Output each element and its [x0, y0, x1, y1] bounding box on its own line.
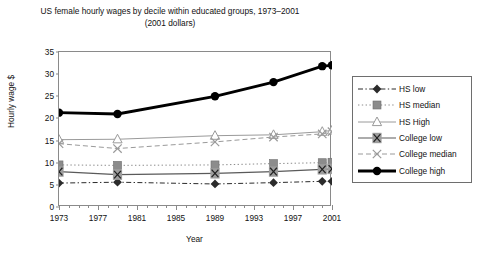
x-tick-mark-major: [215, 205, 216, 210]
x-axis-label: Year: [58, 234, 331, 244]
legend-item-label: College low: [399, 133, 442, 143]
y-tick-mark: [56, 140, 59, 141]
series-hs-high: [59, 125, 332, 143]
legend-symbol: [357, 82, 397, 96]
x-tick-label: 1977: [89, 213, 107, 223]
x-tick-mark-minor: [225, 205, 226, 208]
legend-item[interactable]: College high: [357, 162, 471, 178]
y-tick-mark: [56, 118, 59, 119]
x-tick-mark-minor: [69, 205, 70, 208]
y-tick-label: 35: [45, 47, 54, 57]
x-tick-mark-minor: [166, 205, 167, 208]
series-college-median: [59, 128, 332, 153]
legend-item-label: HS low: [399, 84, 425, 94]
legend-item-label: College high: [399, 166, 445, 176]
legend-item[interactable]: College low: [357, 130, 471, 146]
y-tick-mark: [56, 52, 59, 53]
x-tick-label: 2001: [323, 213, 341, 223]
x-tick-mark-minor: [264, 205, 265, 208]
y-tick-mark: [56, 184, 59, 185]
x-tick-label: 1981: [128, 213, 146, 223]
series-line: [59, 130, 332, 139]
x-tick-mark-major: [332, 205, 333, 210]
x-tick-mark-minor: [322, 205, 323, 208]
x-tick-mark-minor: [88, 205, 89, 208]
y-tick-mark: [56, 162, 59, 163]
x-tick-label: 1989: [206, 213, 224, 223]
x-tick-mark-minor: [108, 205, 109, 208]
x-tick-mark-minor: [157, 205, 158, 208]
series-hs-low: [59, 177, 332, 188]
chart-figure: US female hourly wages by decile within …: [0, 0, 479, 259]
x-tick-mark-major: [176, 205, 177, 210]
x-tick-mark-major: [254, 205, 255, 210]
x-tick-mark-minor: [118, 205, 119, 208]
legend-item-label: HS High: [399, 117, 430, 127]
series-line: [59, 181, 332, 184]
x-tick-mark-major: [98, 205, 99, 210]
x-tick-mark-minor: [147, 205, 148, 208]
x-tick-mark-minor: [186, 205, 187, 208]
y-tick-label: 5: [49, 180, 54, 190]
legend-symbol: [357, 147, 397, 161]
chart-title-line1: US female hourly wages by decile within …: [41, 6, 300, 16]
chart-legend: HS lowHS medianHS HighCollege lowCollege…: [352, 76, 472, 183]
legend-item-label: College median: [399, 149, 457, 159]
legend-symbol: [357, 115, 397, 129]
x-tick-mark-minor: [283, 205, 284, 208]
y-tick-label: 30: [45, 69, 54, 79]
chart-title: US female hourly wages by decile within …: [0, 5, 340, 29]
x-tick-label: 1993: [245, 213, 263, 223]
legend-symbol: [357, 98, 397, 112]
y-tick-label: 15: [45, 136, 54, 146]
chart-title-subtitle: (2001 dollars): [145, 18, 196, 28]
x-tick-mark-major: [293, 205, 294, 210]
legend-item[interactable]: HS low: [357, 81, 471, 97]
x-tick-mark-minor: [205, 205, 206, 208]
legend-item[interactable]: HS median: [357, 97, 471, 113]
series-hs-median: [59, 158, 332, 169]
x-tick-mark-major: [137, 205, 138, 210]
y-tick-label: 0: [49, 202, 54, 212]
series-college-high: [59, 61, 332, 118]
series-line: [59, 162, 332, 165]
x-tick-mark-minor: [79, 205, 80, 208]
y-tick-label: 10: [45, 158, 54, 168]
x-tick-mark-minor: [235, 205, 236, 208]
legend-item-label: HS median: [399, 100, 440, 110]
x-tick-mark-minor: [303, 205, 304, 208]
legend-symbol: [357, 164, 397, 178]
series-line: [59, 169, 332, 175]
x-tick-mark-minor: [196, 205, 197, 208]
x-tick-mark-minor: [244, 205, 245, 208]
series-line: [59, 132, 332, 149]
y-tick-label: 20: [45, 113, 54, 123]
legend-item[interactable]: HS High: [357, 114, 471, 130]
plot-area: 0510152025303519731977198119851989199319…: [58, 51, 331, 206]
y-tick-mark: [56, 96, 59, 97]
x-tick-mark-minor: [313, 205, 314, 208]
x-tick-label: 1997: [284, 213, 302, 223]
x-tick-mark-major: [59, 205, 60, 210]
y-axis-label: Hourly wage $: [6, 75, 16, 128]
legend-symbol: [357, 131, 397, 145]
x-tick-mark-minor: [274, 205, 275, 208]
series-canvas: [59, 52, 332, 207]
x-tick-label: 1973: [50, 213, 68, 223]
series-college-low: [59, 164, 332, 180]
y-tick-label: 25: [45, 91, 54, 101]
y-tick-mark: [56, 74, 59, 75]
x-tick-label: 1985: [167, 213, 185, 223]
x-tick-mark-minor: [127, 205, 128, 208]
legend-item[interactable]: College median: [357, 146, 471, 162]
series-line: [59, 65, 332, 114]
